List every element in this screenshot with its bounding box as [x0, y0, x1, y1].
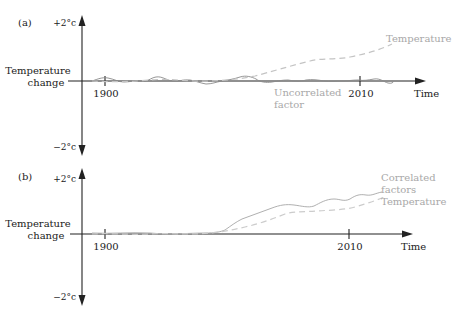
panel-b-x-arrow-icon [402, 231, 413, 238]
panel-b-y-top-label: +2°c [53, 174, 76, 184]
panel-a-factor-label-2: factor [274, 99, 304, 110]
panel-a-uncorrelated-factor-line [92, 76, 393, 84]
panel-a-tick-label-1900: 1900 [93, 88, 118, 99]
panel-a-y-title-2: change [28, 77, 65, 88]
panel-a-y-arrow-up-icon [79, 15, 86, 26]
panel-b-y-arrow-down-icon [79, 295, 86, 306]
panel-a-temperature-label: Temperature [386, 33, 452, 44]
panel-b-label: (b) [18, 171, 32, 182]
panel-b-factors-label-1: Correlated [381, 172, 436, 183]
panel-a-x-title: Time [414, 88, 439, 99]
panel-a-x-arrow-icon [415, 78, 426, 85]
panel-a-y-bottom-label: −2°c [53, 142, 76, 152]
panel-b-tick-label-2010: 2010 [337, 241, 362, 252]
panel-b-temperature-line [92, 196, 386, 234]
panel-a-y-title-1: Temperature [5, 65, 71, 76]
panel-a-factor-label-1: Uncorrelated [274, 87, 342, 98]
panel-a-temperature-line [92, 44, 392, 82]
panel-b-y-bottom-label: −2°c [53, 292, 76, 302]
panel-b-tick-label-1900: 1900 [93, 241, 118, 252]
diagram-canvas: (a) +2°c −2°c Temperature change 1900 20… [0, 0, 456, 321]
panel-b-y-title-1: Temperature [5, 218, 71, 229]
panel-b-temperature-label: Temperature [381, 196, 447, 207]
panel-a-tick-label-2010: 2010 [348, 88, 373, 99]
panel-b-y-title-2: change [28, 230, 65, 241]
panel-b: (b) +2°c −2°c Temperature change 1900 20… [5, 168, 446, 306]
panel-b-correlated-factors-line [92, 192, 382, 234]
panel-b-x-title: Time [401, 241, 426, 252]
panel-a-label: (a) [18, 17, 32, 28]
panel-b-y-arrow-up-icon [79, 168, 86, 179]
panel-b-factors-label-2: factors [381, 184, 416, 195]
panel-a: (a) +2°c −2°c Temperature change 1900 20… [5, 15, 451, 156]
panel-a-y-arrow-down-icon [79, 145, 86, 156]
panel-a-y-top-label: +2°c [53, 18, 76, 28]
